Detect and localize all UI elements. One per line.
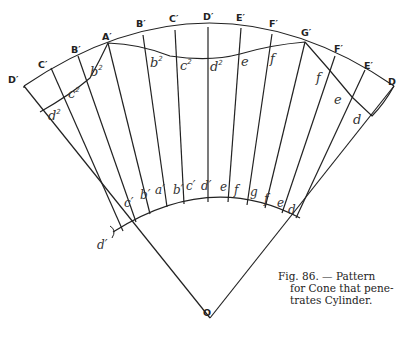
label-b-prime-top: B′ xyxy=(136,18,146,29)
base-label: c′ xyxy=(186,179,196,193)
base-arc xyxy=(113,197,300,232)
label-f-mid: f xyxy=(269,51,277,66)
label-d-prime-top: D′ xyxy=(203,11,214,22)
label-d-prime-left: D′ xyxy=(8,74,19,85)
label-b2-left: b2 xyxy=(90,64,103,79)
figure-caption: Fig. 86. — Pattern for Cone that pene- t… xyxy=(278,270,408,306)
base-label: e xyxy=(277,196,284,210)
base-label: f xyxy=(263,192,271,206)
base-label: g xyxy=(250,185,258,199)
label-f-prime-top: F′ xyxy=(269,18,278,29)
label-d-right: D xyxy=(388,76,396,87)
generator xyxy=(175,30,184,204)
generator xyxy=(51,68,123,231)
base-label: c′ xyxy=(124,196,134,210)
base-label: d xyxy=(288,203,296,217)
base-label: b′ xyxy=(173,183,184,197)
label-c-prime-top: C′ xyxy=(169,13,179,24)
base-label: e xyxy=(220,180,227,194)
label-d2-left: d2 xyxy=(48,108,61,123)
base-label: b′ xyxy=(140,188,151,202)
generator xyxy=(282,56,335,213)
label-f-right: f xyxy=(315,70,323,85)
label-f-prime-right: F′ xyxy=(334,43,343,54)
label-b-prime-left: B′ xyxy=(71,44,81,55)
label-a-prime: A′ xyxy=(102,31,112,42)
apex-label: O xyxy=(203,307,211,318)
label-c2-mid: c2 xyxy=(180,58,192,73)
label-d-right-curve: d xyxy=(353,112,361,127)
generator xyxy=(265,42,305,208)
caption-line-1: Fig. 86. — Pattern xyxy=(278,270,408,282)
generator xyxy=(247,34,272,205)
label-c-prime-left: C′ xyxy=(38,59,48,70)
base-label: a′ xyxy=(155,183,165,197)
caption-line-3: trates Cylinder. xyxy=(278,294,408,306)
label-e-right: e xyxy=(334,92,342,107)
label-e-prime-right: E′ xyxy=(364,60,373,71)
label-e-prime-top: E′ xyxy=(236,12,245,23)
label-e-mid: e xyxy=(241,54,249,69)
label-b2-mid: b2 xyxy=(150,55,163,70)
base-label: d′ xyxy=(201,179,212,193)
caption-line-2: for Cone that pene- xyxy=(278,282,408,294)
base-label: d′ xyxy=(97,238,108,252)
label-c2-left: c2 xyxy=(68,86,80,101)
label-g-prime: G′ xyxy=(301,27,312,38)
label-d2-mid: d2 xyxy=(210,59,223,74)
generator xyxy=(296,70,365,218)
base-label: f xyxy=(233,183,241,197)
